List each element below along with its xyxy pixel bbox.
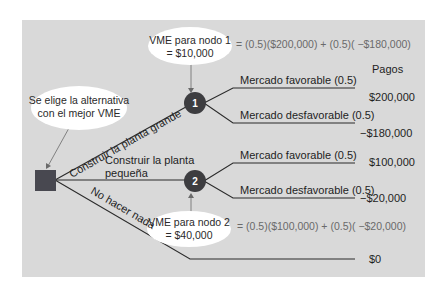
decision-tree-figure: 1 2 VME para nodo 1 = $10,000 Se elige l… <box>0 0 448 296</box>
vme-node2-line1: VME para nodo 2 <box>148 216 230 228</box>
n1-unfavorable-label: Mercado desfavorable (0.5) <box>240 109 375 121</box>
chance-node-2-number: 2 <box>192 176 198 187</box>
payoffs-header: Pagos <box>372 63 404 75</box>
decision-note-line1: Se elige la alternativa <box>29 94 130 106</box>
chance-node-2: 2 <box>184 170 206 192</box>
payoff-n2-favorable: $100,000 <box>369 156 415 168</box>
payoff-n1-unfavorable: −$180,000 <box>360 127 412 139</box>
alt-small-plant-label-line2: pequeña <box>105 167 149 179</box>
vme-node2-line2: = $40,000 <box>165 229 212 241</box>
vme-node1-bubble <box>148 27 232 65</box>
payoff-n2-unfavorable: −$20,000 <box>360 192 406 204</box>
decision-note-line2: con el mejor VME <box>38 107 121 119</box>
vme-node1-line1: VME para nodo 1 <box>149 34 231 46</box>
payoff-do-nothing: $0 <box>369 253 381 265</box>
vme-node1-formula: = (0.5)($200,000) + (0.5)( −$180,000) <box>236 38 411 50</box>
chance-node-1: 1 <box>184 92 206 114</box>
n2-unfavorable-label: Mercado desfavorable (0.5) <box>240 184 375 196</box>
n2-favorable-label: Mercado favorable (0.5) <box>240 149 357 161</box>
alt-small-plant-label-line1: Construir la planta <box>105 154 195 166</box>
chance-node-1-number: 1 <box>192 98 198 109</box>
payoff-n1-favorable: $200,000 <box>369 91 415 103</box>
decision-node-square <box>35 170 56 191</box>
vme-node1-line2: = $10,000 <box>166 47 213 59</box>
n1-favorable-label: Mercado favorable (0.5) <box>240 74 357 86</box>
vme-node2-formula: = (0.5)($100,000) + (0.5)( −$20,000) <box>237 220 406 232</box>
